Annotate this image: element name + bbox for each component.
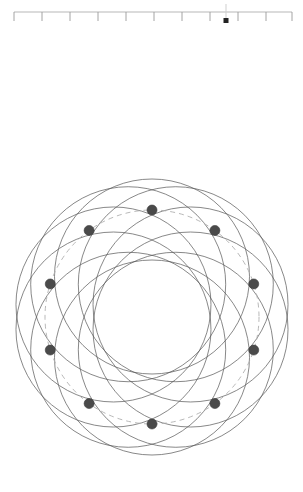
ruler-svg[interactable] — [0, 0, 303, 30]
member-circle — [31, 187, 226, 382]
circle-family — [16, 179, 288, 455]
vertex-node-8[interactable] — [45, 279, 55, 289]
dashed-guide-circle — [45, 210, 259, 424]
dashed-guide-circle — [45, 210, 259, 424]
member-circle — [16, 232, 211, 427]
vertex-node-2[interactable] — [249, 279, 259, 289]
ruler-slider-bar[interactable] — [0, 0, 303, 30]
member-circle — [16, 207, 211, 402]
vertex-node-6[interactable] — [84, 399, 94, 409]
member-circle — [78, 252, 273, 447]
vertex-node-group — [45, 205, 259, 429]
member-circle — [31, 252, 226, 447]
vertex-node-3[interactable] — [249, 345, 259, 355]
vertex-node-0[interactable] — [147, 205, 157, 215]
ruler-handle[interactable] — [224, 18, 229, 23]
vertex-node-7[interactable] — [45, 345, 55, 355]
vertex-node-5[interactable] — [147, 419, 157, 429]
member-circle — [93, 207, 288, 402]
app-root: Spirograph Rosette Viewer — [0, 0, 303, 492]
vertex-node-4[interactable] — [210, 399, 220, 409]
vertex-node-9[interactable] — [84, 225, 94, 235]
vertex-node-1[interactable] — [210, 225, 220, 235]
member-circle — [78, 187, 273, 382]
rosette-svg — [0, 30, 303, 492]
figure-canvas — [0, 30, 303, 492]
member-circle — [93, 232, 288, 427]
